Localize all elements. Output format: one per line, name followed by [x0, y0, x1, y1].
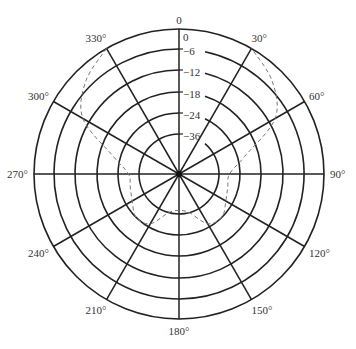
spoke: [53, 174, 179, 247]
angle-label: 180°: [169, 325, 190, 337]
radial-label: −12: [183, 66, 200, 78]
radial-label: −36: [183, 130, 201, 142]
angle-label: 270°: [7, 168, 28, 180]
radial-label: −6: [183, 45, 195, 57]
angle-label: 0: [176, 14, 182, 26]
angle-label: 90°: [330, 168, 345, 180]
angle-label: 240°: [28, 247, 49, 259]
spoke: [107, 174, 180, 300]
angle-label: 210°: [86, 304, 107, 316]
spoke: [107, 48, 180, 174]
angle-label: 30°: [252, 32, 267, 44]
radial-labels: 0−6−12−18−24−36: [183, 31, 201, 142]
radial-label: −24: [183, 109, 201, 121]
center-dot: [176, 171, 182, 177]
angle-label: 120°: [309, 247, 330, 259]
angle-label: 150°: [252, 304, 273, 316]
angle-label: 60°: [309, 90, 324, 102]
radial-label: −18: [183, 88, 201, 100]
spoke: [179, 174, 305, 247]
spoke: [53, 102, 179, 175]
angle-label: 300°: [28, 90, 49, 102]
radial-label: 0: [183, 31, 189, 43]
spoke: [179, 174, 252, 300]
polar-chart: 030°60°90°120°150°180°210°240°270°300°33…: [0, 0, 356, 349]
angle-label: 330°: [86, 32, 107, 44]
